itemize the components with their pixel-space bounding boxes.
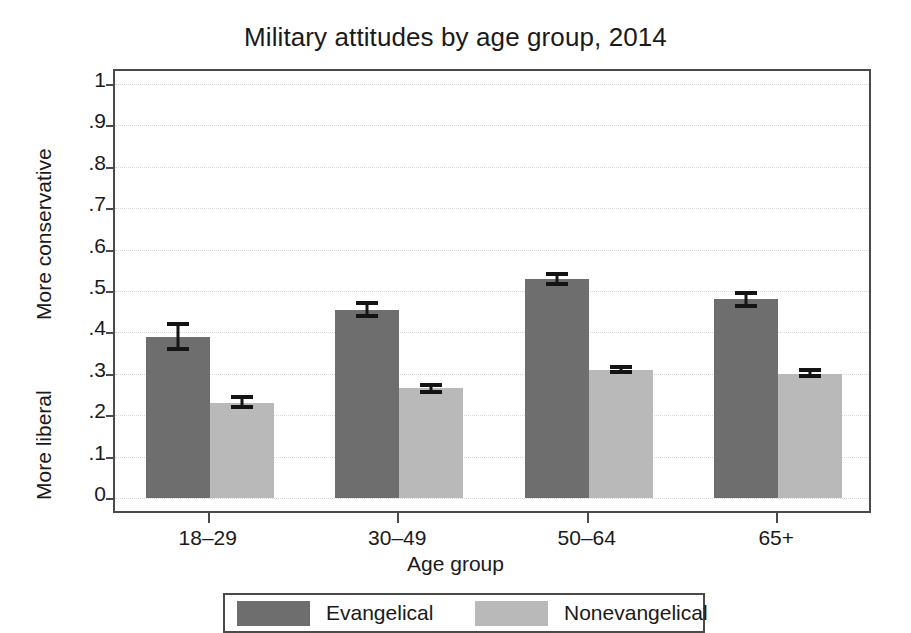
- y-axis-tick-label: .4: [58, 316, 106, 340]
- x-axis-tick-label: 18–29: [179, 526, 237, 550]
- y-axis-tick: [106, 167, 115, 169]
- bar-nonevangelical-65+: [778, 374, 842, 498]
- legend-swatch-evangelical: [237, 601, 310, 626]
- gridline: [115, 250, 869, 252]
- error-bar-cap-bottom: [610, 370, 632, 374]
- y-axis-tick: [106, 498, 115, 500]
- y-axis-tick-label: .9: [58, 109, 106, 133]
- chart-legend: EvangelicalNonevangelical: [223, 593, 705, 633]
- y-axis-title-liberal: More liberal: [32, 390, 56, 500]
- bar-evangelical-5064: [525, 279, 589, 498]
- y-axis-tick-label: 1: [58, 68, 106, 92]
- plot-area: [113, 69, 871, 513]
- y-axis-tick: [106, 457, 115, 459]
- x-axis-tick: [397, 513, 399, 523]
- gridline: [115, 125, 869, 127]
- bar-nonevangelical-3049: [399, 388, 463, 498]
- x-axis-tick-label: 30–49: [368, 526, 426, 550]
- x-axis-tick: [208, 513, 210, 523]
- y-axis-tick-label: .7: [58, 192, 106, 216]
- legend-item-evangelical: Evangelical: [237, 595, 433, 631]
- legend-label: Nonevangelical: [564, 601, 708, 625]
- y-axis-tick: [106, 250, 115, 252]
- y-axis-tick-label: 0: [58, 482, 106, 506]
- error-bar-cap-bottom: [546, 282, 568, 286]
- y-axis-tick-label: .3: [58, 358, 106, 382]
- legend-item-nonevangelical: Nonevangelical: [475, 595, 708, 631]
- error-bar-cap-bottom: [735, 304, 757, 308]
- y-axis-tick-label: .2: [58, 399, 106, 423]
- bar-nonevangelical-5064: [589, 370, 653, 498]
- chart-title: Military attitudes by age group, 2014: [0, 22, 911, 53]
- error-bar: [726, 291, 766, 308]
- x-axis-tick-label: 50–64: [558, 526, 616, 550]
- error-bar: [790, 368, 830, 378]
- y-axis-tick-label: .5: [58, 275, 106, 299]
- error-bar: [411, 383, 451, 395]
- bar-evangelical-1829: [146, 337, 210, 498]
- error-bar: [601, 365, 641, 374]
- y-axis-tick: [106, 84, 115, 86]
- error-bar: [347, 301, 387, 318]
- error-bar-cap-bottom: [356, 314, 378, 318]
- y-axis-tick: [106, 374, 115, 376]
- legend-label: Evangelical: [326, 601, 433, 625]
- error-bar: [537, 272, 577, 286]
- error-bar-cap-bottom: [231, 405, 253, 409]
- x-axis-title: Age group: [0, 552, 911, 576]
- x-axis-tick: [587, 513, 589, 523]
- gridline: [115, 84, 869, 86]
- error-bar: [222, 395, 262, 409]
- y-axis-tick: [106, 415, 115, 417]
- gridline: [115, 167, 869, 169]
- bar-evangelical-65+: [714, 299, 778, 498]
- y-axis-tick-label: .8: [58, 151, 106, 175]
- y-axis-tick: [106, 208, 115, 210]
- y-axis-tick: [106, 332, 115, 334]
- error-bar-cap-bottom: [420, 390, 442, 394]
- error-bar-cap-bottom: [167, 347, 189, 351]
- y-axis-tick: [106, 291, 115, 293]
- gridline: [115, 498, 869, 500]
- gridline: [115, 208, 869, 210]
- y-axis-tick: [106, 125, 115, 127]
- bar-nonevangelical-1829: [210, 403, 274, 498]
- error-bar: [158, 322, 198, 351]
- x-axis-tick-label: 65+: [758, 526, 794, 550]
- y-axis-tick-label: .6: [58, 234, 106, 258]
- y-axis-tick-label: .1: [58, 441, 106, 465]
- legend-swatch-nonevangelical: [475, 601, 548, 626]
- error-bar-cap-bottom: [799, 374, 821, 378]
- y-axis-title-conservative: More conservative: [32, 148, 56, 320]
- bar-evangelical-3049: [335, 310, 399, 498]
- x-axis-tick: [776, 513, 778, 523]
